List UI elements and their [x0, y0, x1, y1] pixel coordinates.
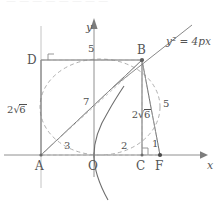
segment-length-BC-radicand: 6 — [144, 109, 151, 120]
segment-length-AB: 7 — [83, 97, 89, 107]
point-label-D: D — [27, 54, 37, 66]
y-axis-label: y — [86, 22, 92, 33]
point-label-A: A — [35, 160, 44, 172]
x-axis-label: x — [207, 160, 213, 171]
point-marker-A — [39, 153, 42, 156]
curve-equation-label: y² = 4px — [166, 36, 211, 47]
segment-length-BF: 5 — [163, 99, 169, 109]
point-marker-C — [141, 154, 144, 157]
x-axis-arrow — [200, 151, 208, 158]
point-label-B: B — [137, 44, 146, 56]
point-label-F: F — [155, 160, 163, 172]
point-markers-group — [39, 58, 162, 158]
point-label-O: O — [88, 160, 98, 172]
dashed-segment-AC — [41, 72, 132, 155]
parabola-curve — [94, 86, 124, 200]
right-angle-D-icon — [48, 54, 54, 60]
segment-length-DB: 5 — [88, 44, 94, 54]
segment-length-OC: 2 — [121, 141, 127, 151]
segment-length-AD-radicand: 6 — [19, 104, 26, 115]
segment-length-AO: 3 — [64, 141, 70, 151]
parabola-group — [94, 86, 124, 200]
geometry-diagram-svg — [0, 0, 223, 207]
point-label-C: C — [136, 160, 145, 172]
segment-length-AD: 2√6 — [7, 104, 27, 115]
segment-length-CF: 1 — [152, 139, 158, 149]
figure-canvas: — — — — — — — — — [0, 0, 223, 207]
point-marker-F — [158, 153, 162, 157]
point-marker-B — [140, 58, 144, 62]
segment-length-BC: 2√6 — [132, 109, 152, 120]
